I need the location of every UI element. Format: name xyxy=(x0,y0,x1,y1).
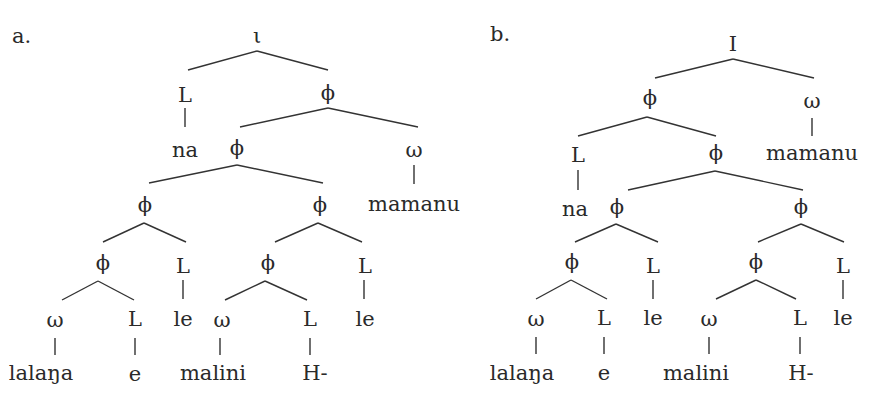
tree-b-word-malini: malini xyxy=(663,363,729,384)
tree-a-word-na: na xyxy=(172,140,198,161)
tree-b-node-omega: ω xyxy=(700,309,717,330)
tree-b-node-phi: ϕ xyxy=(565,252,579,273)
tree-b-node-L: L xyxy=(597,308,611,329)
tree-a-node-phi: ϕ xyxy=(96,253,110,274)
tree-a-node-L: L xyxy=(176,256,190,277)
tree-a-node-omega: ω xyxy=(46,310,63,331)
tree-a-node-L: L xyxy=(178,85,192,106)
tree-a-word-lalana: lalaŋa xyxy=(9,363,74,384)
tree-a-word-le: le xyxy=(355,309,374,330)
tree-b-word-H: H- xyxy=(788,363,813,384)
tree-b-node-L: L xyxy=(646,256,660,277)
tree-a-word-H: H- xyxy=(302,363,327,384)
tree-a-node-L: L xyxy=(128,309,142,330)
tree-b-word-na: na xyxy=(562,199,588,220)
panel-a-label: a. xyxy=(12,26,31,47)
tree-a-node-L: L xyxy=(358,256,372,277)
tree-a-word-mamanu: mamanu xyxy=(368,194,460,215)
panel-b-label: b. xyxy=(490,24,510,45)
tree-b-node-L: L xyxy=(793,308,807,329)
tree-a-node-phi: ϕ xyxy=(261,253,275,274)
tree-b-node-phi: ϕ xyxy=(643,88,657,109)
tree-b-root-I: I xyxy=(729,34,737,55)
tree-b-node-L: L xyxy=(836,256,850,277)
tree-b-word-lalana: lalaŋa xyxy=(490,363,555,384)
tree-a-word-le: le xyxy=(173,309,192,330)
tree-b-node-phi: ϕ xyxy=(749,252,763,273)
tree-b-node-phi: ϕ xyxy=(794,197,808,218)
tree-b-word-mamanu: mamanu xyxy=(766,143,858,164)
tree-a-node-L: L xyxy=(303,309,317,330)
tree-a-node-phi: ϕ xyxy=(230,138,244,159)
tree-b-node-L: L xyxy=(571,145,585,166)
tree-a-node-phi: ϕ xyxy=(313,195,327,216)
tree-a-node-phi: ϕ xyxy=(321,83,335,104)
tree-a-root-iota: ι xyxy=(253,26,261,47)
tree-b-node-phi: ϕ xyxy=(610,197,624,218)
tree-b-node-phi: ϕ xyxy=(709,143,723,164)
tree-a-word-e: e xyxy=(129,364,141,385)
tree-a-node-omega: ω xyxy=(213,310,230,331)
tree-b-node-omega: ω xyxy=(527,309,544,330)
tree-a-word-malini: malini xyxy=(180,363,246,384)
tree-a-node-phi: ϕ xyxy=(138,195,152,216)
tree-a-node-omega: ω xyxy=(405,140,422,161)
tree-b-word-le: le xyxy=(833,308,852,329)
tree-b-node-omega: ω xyxy=(803,91,820,112)
tree-b-word-le: le xyxy=(643,308,662,329)
tree-b-word-e: e xyxy=(598,363,610,384)
